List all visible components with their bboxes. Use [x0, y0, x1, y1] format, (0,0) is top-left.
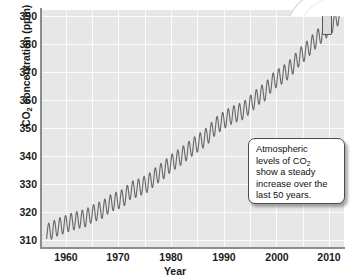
x-tick-2000: 2000 — [257, 251, 297, 263]
y-tick-340: 340 — [11, 151, 37, 162]
x-axis-tick-labels: 1960 1970 1980 1990 2000 2010 — [0, 251, 350, 265]
callout-co2-subscript: 2 — [307, 160, 311, 167]
callout-line-5: last 50 years. — [256, 190, 338, 202]
y-axis-tick-labels: 390 380 370 360 350 340 330 320 310 — [9, 0, 37, 280]
series-end-marker — [322, 14, 332, 35]
callout-line-2: levels of CO2 — [256, 156, 338, 168]
x-tick-1990: 1990 — [204, 251, 244, 263]
y-tick-360: 360 — [11, 95, 37, 106]
y-tick-330: 330 — [11, 179, 37, 190]
x-tick-1960: 1960 — [46, 251, 86, 263]
callout-line-2-pre: levels of CO — [256, 156, 307, 166]
y-tick-320: 320 — [11, 207, 37, 218]
x-axis-line — [40, 247, 345, 249]
x-tick-1970: 1970 — [98, 251, 138, 263]
trend-callout: Atmospheric levels of CO2 show a steady … — [248, 138, 345, 204]
callout-line-1: Atmospheric — [256, 144, 338, 156]
plot-area — [41, 10, 344, 247]
y-tick-390: 390 — [11, 11, 37, 22]
y-tick-350: 350 — [11, 123, 37, 134]
y-axis-line — [40, 8, 42, 249]
x-axis-title: Year — [0, 265, 350, 277]
y-tick-380: 380 — [11, 39, 37, 50]
callout-line-3: show a steady — [256, 167, 338, 179]
x-tick-1980: 1980 — [151, 251, 191, 263]
y-tick-310: 310 — [11, 235, 37, 246]
co2-data-line — [41, 10, 344, 247]
callout-line-4: increase over the — [256, 179, 338, 191]
y-tick-370: 370 — [11, 67, 37, 78]
x-tick-2010: 2010 — [309, 251, 349, 263]
